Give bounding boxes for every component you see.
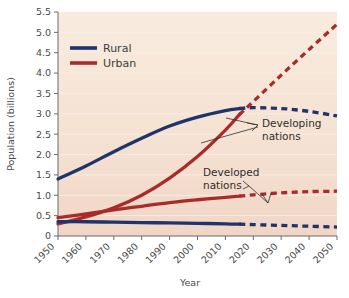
y-tick-label: 2.5 bbox=[36, 129, 51, 140]
y-tick-label: 4.0 bbox=[36, 67, 51, 78]
x-tick-label: 2010 bbox=[199, 241, 224, 266]
y-tick-label: 2.0 bbox=[36, 149, 51, 160]
y-tick-label: 1.0 bbox=[36, 190, 51, 201]
x-tick-label: 2020 bbox=[227, 241, 252, 266]
annotation-developing-line2: nations bbox=[262, 130, 301, 142]
x-tick-label: 2040 bbox=[283, 241, 308, 266]
x-axis-ticks: 1950196019701980199020002010202020302040… bbox=[32, 236, 337, 266]
y-tick-label: 5.0 bbox=[36, 27, 51, 38]
y-axis-title: Population (billions) bbox=[5, 77, 16, 171]
y-tick-label: 3.5 bbox=[36, 88, 51, 99]
legend-label-rural: Rural bbox=[103, 42, 131, 55]
x-tick-label: 2050 bbox=[311, 241, 336, 266]
x-tick-label: 2030 bbox=[255, 241, 280, 266]
annotation-developing-line1: Developing bbox=[262, 117, 321, 129]
y-tick-label: 3.0 bbox=[36, 108, 51, 119]
y-tick-label: 0.5 bbox=[36, 210, 51, 221]
chart-figure: 00.51.01.52.02.53.03.54.04.55.05.5 19501… bbox=[0, 0, 349, 298]
x-tick-label: 1970 bbox=[87, 241, 112, 266]
y-tick-label: 4.5 bbox=[36, 47, 51, 58]
x-tick-label: 1950 bbox=[32, 241, 57, 266]
annotation-developed-line2: nations bbox=[203, 179, 242, 191]
x-tick-label: 2000 bbox=[171, 241, 196, 266]
y-axis-ticks: 00.51.01.52.02.53.03.54.04.55.05.5 bbox=[36, 6, 58, 241]
legend-label-urban: Urban bbox=[103, 57, 136, 70]
y-tick-label: 5.5 bbox=[36, 6, 51, 17]
y-tick-label: 0 bbox=[45, 230, 51, 241]
x-tick-label: 1990 bbox=[143, 241, 168, 266]
x-tick-label: 1980 bbox=[115, 241, 140, 266]
chart-canvas: 00.51.01.52.02.53.03.54.04.55.05.5 19501… bbox=[0, 0, 349, 298]
y-tick-label: 1.5 bbox=[36, 169, 51, 180]
x-axis-title: Year bbox=[179, 277, 200, 288]
x-tick-label: 1960 bbox=[59, 241, 84, 266]
annotation-developed-line1: Developed bbox=[203, 166, 259, 178]
